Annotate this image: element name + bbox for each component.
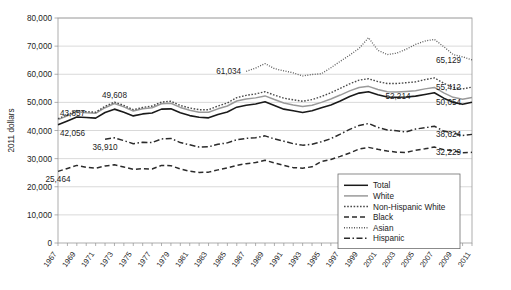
legend-label-asian: Asian — [373, 224, 394, 233]
y-tick-label: 60,000 — [27, 70, 52, 79]
y-axis-title-group: 2011 dollars — [7, 109, 16, 153]
x-tick-label: 1991 — [267, 250, 284, 269]
data-point-label: 55,412 — [436, 83, 461, 92]
x-tick-label: 1969 — [60, 250, 77, 269]
y-tick-label: 0 — [47, 239, 52, 248]
x-tick-label: 1997 — [324, 250, 341, 269]
y-tick-label: 50,000 — [27, 98, 52, 107]
legend-label-non-hispanic-white: Non-Hispanic White — [373, 203, 446, 212]
x-tick-label: 1979 — [154, 250, 171, 269]
legend-group: TotalWhiteNon-Hispanic WhiteBlackAsianHi… — [338, 174, 460, 249]
data-point-label: 52,214 — [385, 92, 410, 101]
y-tick-label: 80,000 — [27, 14, 52, 23]
x-tick-label: 1999 — [343, 250, 360, 269]
series-line-black — [58, 147, 472, 172]
series-lines-group — [58, 38, 472, 173]
data-point-label: 65,129 — [436, 56, 461, 65]
x-tick-label: 2009 — [437, 250, 454, 269]
x-tick-label: 2005 — [399, 250, 416, 269]
data-point-label: 49,608 — [102, 91, 127, 100]
legend-label-total: Total — [373, 181, 390, 190]
x-tick-label: 1981 — [173, 250, 190, 269]
x-tick-label: 1987 — [230, 250, 247, 269]
x-tick-label: 1985 — [211, 250, 228, 269]
data-point-label: 50,054 — [436, 98, 461, 107]
y-axis-ticks: 010,00020,00030,00040,00050,00060,00070,… — [27, 14, 58, 248]
data-point-label: 61,034 — [216, 67, 241, 76]
x-tick-label: 1977 — [136, 250, 153, 269]
x-tick-label: 1975 — [117, 250, 134, 269]
data-point-label: 25,464 — [45, 175, 70, 184]
data-point-label: 36,910 — [93, 143, 118, 152]
y-axis-title: 2011 dollars — [7, 109, 16, 153]
x-tick-label: 1995 — [305, 250, 322, 269]
x-tick-label: 1971 — [79, 250, 96, 269]
x-tick-label: 2011 — [456, 250, 473, 269]
x-tick-label: 2007 — [418, 250, 435, 269]
legend-label-white: White — [373, 192, 394, 201]
y-tick-label: 30,000 — [27, 155, 52, 164]
legend-label-hispanic: Hispanic — [373, 234, 404, 243]
legend-label-black: Black — [373, 213, 394, 222]
data-point-label: 32,229 — [436, 148, 461, 157]
x-tick-label: 1989 — [249, 250, 266, 269]
x-tick-label: 2001 — [361, 250, 378, 269]
chart-canvas: 010,00020,00030,00040,00050,00060,00070,… — [0, 0, 511, 290]
x-tick-label: 2003 — [380, 250, 397, 269]
x-tick-label: 1973 — [98, 250, 115, 269]
series-line-hispanic — [105, 123, 472, 147]
y-tick-label: 70,000 — [27, 42, 52, 51]
y-tick-label: 10,000 — [27, 211, 52, 220]
x-tick-label: 1993 — [286, 250, 303, 269]
x-tick-label: 1983 — [192, 250, 209, 269]
y-tick-label: 40,000 — [27, 127, 52, 136]
data-point-label: 43,857 — [60, 109, 85, 118]
data-point-label: 42,056 — [60, 129, 85, 138]
data-point-label: 38,624 — [436, 130, 461, 139]
income-line-chart: 010,00020,00030,00040,00050,00060,00070,… — [0, 0, 511, 290]
x-tick-label: 1967 — [42, 250, 59, 269]
